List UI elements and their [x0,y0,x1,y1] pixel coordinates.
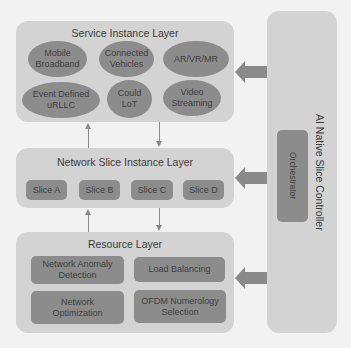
resource-load-balancing: Load Balancing [134,257,225,282]
service-ar-vr-mr: AR/VR/MR [163,41,229,77]
arrow-up-head [85,209,91,215]
arrow-controller-to-slice [235,167,267,189]
slice-b: Slice B [79,180,120,200]
service-video-streaming: VideoStreaming [163,80,221,116]
arrow-down-head [156,225,162,231]
slice-c: Slice C [131,180,173,200]
arrow-slice-to-service [88,128,89,148]
service-could-lot: CouldLoT [107,80,152,118]
service-mobile-broadband: MobileBroadband [28,41,87,77]
service-event-defined-urllc: Event DefineduRLLC [22,82,100,118]
arrow-service-to-slice [159,122,160,142]
resource-network-anomaly-detection: Network AnomalyDetection [31,256,124,284]
resource-ofdm-numerology-selection: OFDM NumerologySelection [134,290,226,323]
slice-layer-title: Network Slice Instance Layer [16,156,234,168]
arrow-resource-to-slice [88,214,89,232]
controller-title: AI Native Slice Controller [310,11,330,333]
arrow-slice-to-resource [159,208,160,226]
resource-network-optimization: NetworkOptimization [31,291,124,324]
orchestrator: Orchestrator [277,130,308,222]
arrow-controller-to-service [235,61,267,83]
resource-layer-title: Resource Layer [16,238,234,250]
service-connected-vehicles: ConnectedVehicles [99,41,154,77]
arrow-up-head [85,123,91,129]
slice-d: Slice D [183,180,224,200]
service-layer-title: Service Instance Layer [16,27,234,39]
arrow-down-head [156,141,162,147]
slice-a: Slice A [26,180,67,200]
arrow-controller-to-resource [235,267,267,289]
